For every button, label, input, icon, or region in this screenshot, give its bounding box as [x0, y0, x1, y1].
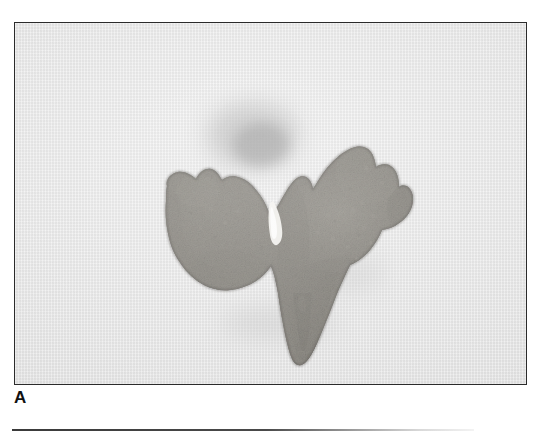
panel-label-a: A [14, 387, 26, 408]
bone-specimen-image [15, 23, 527, 385]
photo-frame [14, 22, 527, 385]
caption-divider-rule [12, 429, 474, 431]
figure-plate: A [0, 0, 533, 437]
specimen-body [145, 133, 445, 383]
